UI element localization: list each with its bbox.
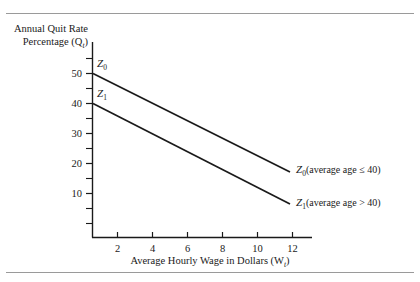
x-axis-title: Average Hourly Wage in Dollars (Wt)	[0, 255, 420, 269]
curve-tag-z1-origin-sub: 1	[103, 93, 107, 102]
y-major-ticks	[86, 74, 92, 194]
curve-tag-z0-end-note: (average age ≤ 40)	[306, 164, 381, 175]
y-tick-label-30: 30	[56, 128, 82, 139]
y-minor-ticks	[86, 59, 92, 224]
x-tick-label-10: 10	[248, 243, 268, 254]
y-tick-label-50: 50	[56, 68, 82, 79]
y-tick-label-20: 20	[56, 158, 82, 169]
curve-tag-z0-origin-sub: 0	[103, 63, 107, 72]
x-tick-label-4: 4	[143, 243, 163, 254]
x-tick-label-12: 12	[283, 243, 303, 254]
curve-tag-z0-origin: Z0	[97, 57, 107, 72]
y-tick-label-40: 40	[56, 98, 82, 109]
x-axis-title-paren: )	[286, 255, 290, 266]
curve-tag-z1-end-note: (average age > 40)	[306, 197, 381, 208]
chart-plot-area	[0, 0, 420, 282]
curve-tag-z1-origin: Z1	[97, 87, 107, 102]
x-tick-label-6: 6	[178, 243, 198, 254]
figure-container: Annual Quit Rate Percentage (Qt)	[0, 0, 420, 282]
curve-tag-z0-end: Z0(average age ≤ 40)	[296, 163, 380, 178]
series-line-z0	[93, 74, 290, 173]
x-tick-label-8: 8	[213, 243, 233, 254]
curve-tag-z1-end: Z1(average age > 40)	[296, 196, 381, 211]
y-tick-label-10: 10	[56, 188, 82, 199]
series-line-z1	[93, 104, 290, 205]
x-axis-title-text: Average Hourly Wage in Dollars (W	[130, 255, 284, 266]
x-tick-label-2: 2	[108, 243, 128, 254]
